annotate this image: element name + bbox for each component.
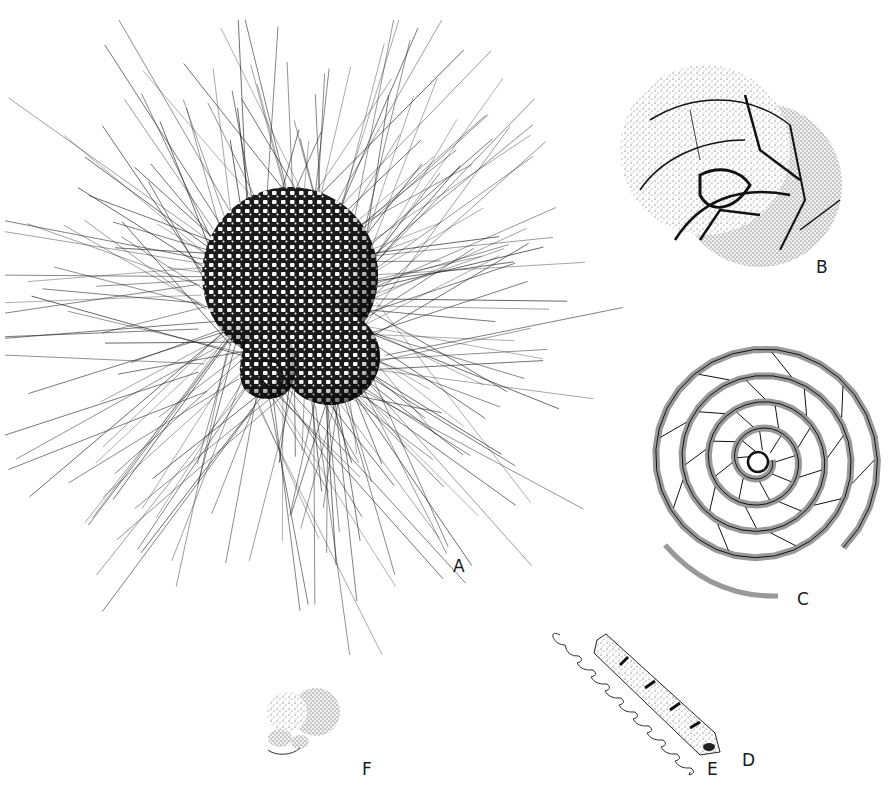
figure-a xyxy=(5,20,623,655)
figure-d xyxy=(594,634,720,755)
figure-label-a: A xyxy=(453,558,465,575)
foraminifera-plate xyxy=(0,0,895,789)
figure-c xyxy=(656,350,878,597)
figure-label-d: D xyxy=(742,752,755,769)
figure-label-b: B xyxy=(816,259,828,276)
figure-f xyxy=(267,688,340,754)
figure-label-c: C xyxy=(797,591,809,608)
figure-label-e: E xyxy=(707,761,718,778)
figure-label-f: F xyxy=(362,761,372,778)
figure-a-body xyxy=(202,187,380,405)
figure-b xyxy=(620,65,842,267)
